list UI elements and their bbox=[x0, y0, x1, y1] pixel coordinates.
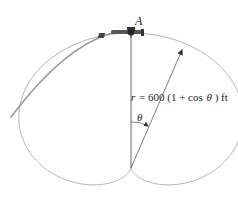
flight-path bbox=[11, 33, 112, 117]
radius-arrow bbox=[131, 50, 182, 168]
equation-close: ) ft bbox=[215, 91, 228, 104]
cardioid-curve bbox=[19, 33, 238, 185]
equation-theta: θ bbox=[207, 91, 213, 103]
equation-body: = 600 (1 + cos bbox=[139, 91, 203, 104]
theta-label: θ bbox=[137, 111, 143, 123]
airplane-icon bbox=[98, 27, 144, 38]
cardioid-diagram: A r = 600 (1 + cos θ ) ft θ bbox=[0, 0, 238, 199]
equation-r: r bbox=[131, 91, 136, 103]
point-a-label: A bbox=[134, 14, 143, 28]
equation-label: r = 600 (1 + cos θ ) ft bbox=[131, 91, 228, 104]
